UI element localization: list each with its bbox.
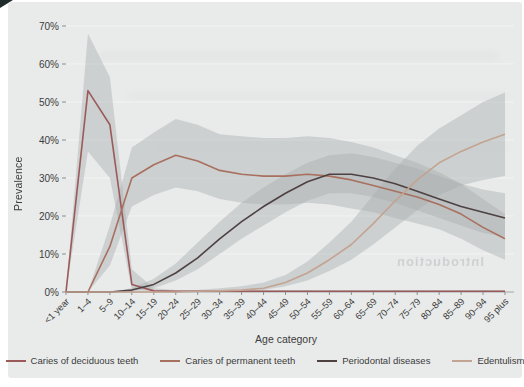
x-tick-label: 85–89 xyxy=(441,296,466,321)
x-tick-label: 30–34 xyxy=(200,296,225,321)
x-tick-label: 20–24 xyxy=(156,296,181,321)
y-axis-title: Prevalence xyxy=(12,94,24,274)
x-tick-label: 75–79 xyxy=(397,296,422,321)
line-swatch-icon xyxy=(452,360,472,362)
y-tick-label: 20% xyxy=(39,211,59,222)
legend-label: Edentulism xyxy=(477,355,524,366)
y-tick-label: 70% xyxy=(39,21,59,32)
y-tick-label: 10% xyxy=(39,249,59,260)
x-tick-label: 65–69 xyxy=(353,296,378,321)
x-tick-label: 10–14 xyxy=(112,296,137,321)
x-tick-label: <1 year xyxy=(42,296,71,325)
legend-item-caries-deciduous: Caries of deciduous teeth xyxy=(6,355,139,366)
y-tick-label: 0% xyxy=(45,287,60,298)
x-tick-label: 45–49 xyxy=(266,296,291,321)
x-tick-label: 5–9 xyxy=(97,296,115,314)
x-tick-label: 50–54 xyxy=(288,296,313,321)
x-tick-label: 70–74 xyxy=(375,296,400,321)
x-tick-label: 15–19 xyxy=(134,296,159,321)
x-axis-title: Age category xyxy=(66,333,506,345)
x-tick-label: 35–39 xyxy=(222,296,247,321)
y-tick-label: 30% xyxy=(39,173,59,184)
x-tick-label: 55–59 xyxy=(309,296,334,321)
legend-label: Caries of deciduous teeth xyxy=(31,355,139,366)
chart-legend: Caries of deciduous teeth Caries of perm… xyxy=(8,355,522,366)
legend-label: Caries of permanent teeth xyxy=(185,355,295,366)
legend-item-edentulism: Edentulism xyxy=(452,355,524,366)
x-tick-label: 40–44 xyxy=(244,296,269,321)
x-tick-label: 80–84 xyxy=(419,296,444,321)
x-tick-label: 95 plus xyxy=(482,296,511,325)
prevalence-line-chart: 0%10%20%30%40%50%60%70%<1 year1–45–910–1… xyxy=(8,2,522,378)
legend-item-caries-permanent: Caries of permanent teeth xyxy=(160,355,295,366)
x-tick-label: 25–29 xyxy=(178,296,203,321)
y-tick-label: 40% xyxy=(39,135,59,146)
x-tick-label: 1–4 xyxy=(75,296,93,314)
legend-label: Periodontal diseases xyxy=(342,355,430,366)
figure-panel: 0%10%20%30%40%50%60%70%<1 year1–45–910–1… xyxy=(8,2,522,378)
line-swatch-icon xyxy=(317,360,337,362)
y-tick-label: 60% xyxy=(39,59,59,70)
line-swatch-icon xyxy=(160,360,180,362)
legend-item-periodontal: Periodontal diseases xyxy=(317,355,430,366)
line-swatch-icon xyxy=(6,360,26,362)
x-tick-label: 60–64 xyxy=(331,296,356,321)
y-tick-label: 50% xyxy=(39,97,59,108)
